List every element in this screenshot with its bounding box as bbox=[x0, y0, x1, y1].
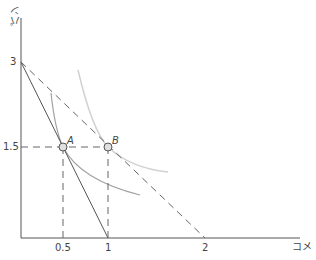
budget-line-dashed bbox=[21, 62, 205, 238]
point-b-label: B bbox=[112, 136, 119, 146]
x-tick-1: 1 bbox=[105, 243, 111, 253]
point-b-marker bbox=[104, 143, 112, 151]
x-tick-2: 2 bbox=[202, 243, 208, 253]
point-a-label: A bbox=[67, 136, 74, 146]
x-axis-label: コメ bbox=[292, 242, 312, 252]
point-a-marker bbox=[59, 143, 67, 151]
indifference-curve-b bbox=[78, 70, 168, 172]
y-tick-3: 3 bbox=[10, 57, 16, 67]
diagram-canvas bbox=[0, 0, 316, 260]
y-tick-1.5: 1.5 bbox=[3, 142, 19, 152]
y-axis-label: パン bbox=[8, 6, 23, 26]
x-tick-0.5: 0.5 bbox=[55, 243, 71, 253]
